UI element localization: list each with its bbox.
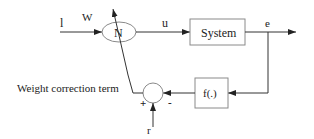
minus-sign: - <box>168 96 172 108</box>
system-label: System <box>201 26 237 40</box>
function-label: f(.) <box>203 87 217 100</box>
plus-sign: + <box>140 97 146 109</box>
correction-label: Weight correction term <box>17 82 119 94</box>
control-label: u <box>162 16 168 30</box>
block-diagram: l W N u System e f(.) + - r Weight corre… <box>0 0 314 139</box>
weight-label: W <box>82 11 93 23</box>
reference-label: r <box>147 124 151 136</box>
input-label: l <box>60 16 64 30</box>
error-label: e <box>265 17 270 29</box>
correction-path <box>128 75 143 93</box>
